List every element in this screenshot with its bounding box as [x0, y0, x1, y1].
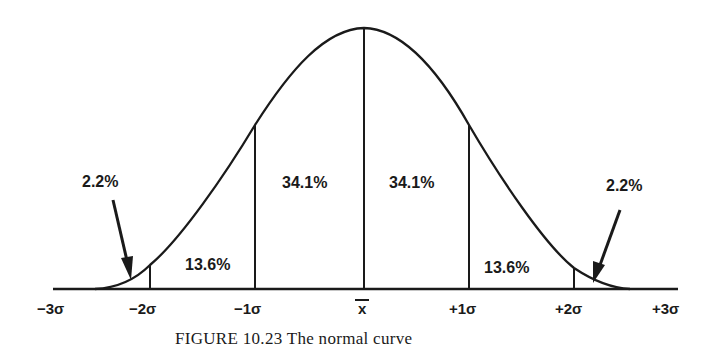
label-left-tail: 2.2%	[82, 173, 118, 190]
bell-curve	[95, 28, 630, 289]
tick-minus-3sigma: −3σ	[37, 300, 64, 317]
label-left-center: 34.1%	[282, 174, 327, 191]
left-arrow-icon	[113, 200, 133, 280]
tick-plus-3sigma: +3σ	[652, 300, 679, 317]
figure-caption: FIGURE 10.23 The normal curve	[175, 329, 412, 348]
label-right-tail: 2.2%	[606, 177, 642, 194]
normal-curve-diagram: 2.2% 13.6% 34.1% 34.1% 13.6% 2.2% −3σ −2…	[0, 0, 723, 354]
tick-plus-2sigma: +2σ	[555, 300, 582, 317]
tick-minus-1sigma: −1σ	[234, 300, 261, 317]
label-left-mid: 13.6%	[185, 256, 230, 273]
tick-plus-1sigma: +1σ	[449, 300, 476, 317]
label-right-mid: 13.6%	[484, 259, 529, 276]
tick-mean: x	[358, 300, 367, 317]
right-arrow-icon	[593, 210, 620, 283]
tick-minus-2sigma: −2σ	[129, 300, 156, 317]
label-right-center: 34.1%	[389, 174, 434, 191]
